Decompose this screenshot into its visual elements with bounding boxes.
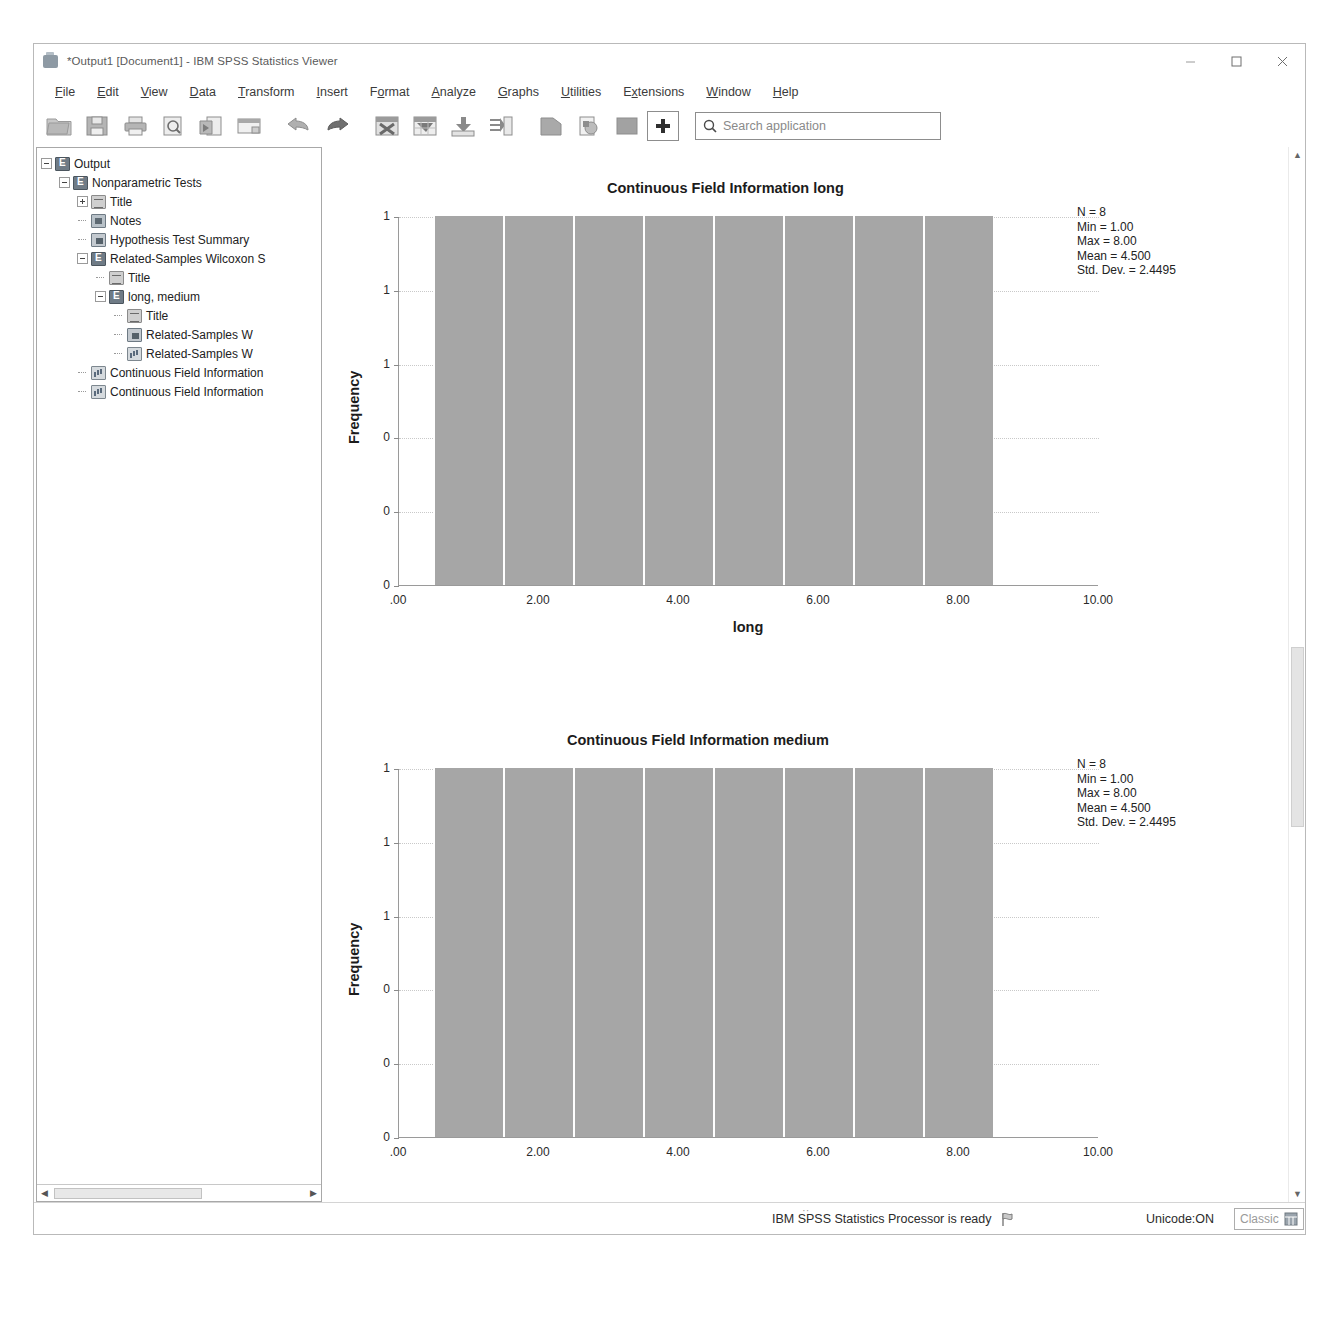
search-placeholder: Search application (723, 119, 826, 133)
menu-item-data[interactable]: Data (179, 82, 227, 102)
bar[interactable] (574, 216, 644, 585)
menu-item-insert[interactable]: Insert (306, 82, 359, 102)
go-to-variable-icon[interactable] (407, 109, 443, 143)
window-controls (1167, 44, 1305, 78)
export-icon[interactable] (193, 109, 229, 143)
menu-item-extensions[interactable]: Extensions (612, 82, 695, 102)
outline-node-label: Continuous Field Information (110, 366, 263, 380)
mode-indicator[interactable]: Classic (1234, 1208, 1304, 1230)
redo-icon[interactable] (319, 109, 355, 143)
outline-tree[interactable]: OutputNonparametric TestsTitleNotesHypot… (37, 148, 321, 1184)
tree-connector (113, 348, 124, 359)
bar[interactable] (504, 768, 574, 1137)
bar[interactable] (644, 768, 714, 1137)
notes-icon (91, 214, 106, 228)
bar[interactable] (574, 768, 644, 1137)
outline-node[interactable]: Nonparametric Tests (41, 173, 321, 192)
bar[interactable] (644, 216, 714, 585)
y-tick-mark (394, 917, 399, 918)
outline-node-label: Hypothesis Test Summary (110, 233, 249, 247)
hscroll-track[interactable] (52, 1187, 306, 1200)
search-icon (703, 119, 717, 133)
x-tick-label: 6.00 (788, 593, 848, 607)
insert-variable-icon[interactable] (483, 109, 519, 143)
outline-node[interactable]: Related-Samples Wilcoxon S (41, 249, 321, 268)
close-icon[interactable] (1259, 46, 1305, 76)
bar[interactable] (784, 216, 854, 585)
recall-dialog-icon[interactable] (231, 109, 267, 143)
chart-block[interactable]: Continuous Field Information longN = 8Mi… (322, 147, 1305, 692)
outline-node[interactable]: Continuous Field Information (41, 382, 321, 401)
outline-node-label: long, medium (128, 290, 200, 304)
collapse-icon[interactable] (77, 253, 88, 264)
use-sets-icon[interactable] (647, 111, 679, 141)
output-pane[interactable]: ▲ ▼ Continuous Field Information longN =… (322, 147, 1305, 1202)
bar[interactable] (854, 216, 924, 585)
value-labels-icon[interactable] (609, 109, 645, 143)
menu-item-utilities[interactable]: Utilities (550, 82, 612, 102)
print-preview-icon[interactable] (155, 109, 191, 143)
chart-title: Continuous Field Information medium (567, 732, 829, 748)
bar[interactable] (714, 768, 784, 1137)
scroll-left-icon[interactable]: ◀ (37, 1186, 52, 1201)
outline-node[interactable]: Related-Samples W (41, 325, 321, 344)
outline-node[interactable]: Continuous Field Information (41, 363, 321, 382)
outline-node-label: Title (110, 195, 132, 209)
collapse-icon[interactable] (95, 291, 106, 302)
select-cases-icon[interactable] (571, 109, 607, 143)
outline-node[interactable]: Output (41, 154, 321, 173)
bar[interactable] (784, 768, 854, 1137)
outline-node[interactable]: Related-Samples W (41, 344, 321, 363)
bar[interactable] (434, 768, 504, 1137)
minimize-icon[interactable] (1167, 46, 1213, 76)
y-axis-label: Frequency (346, 370, 362, 443)
menu-item-view[interactable]: View (130, 82, 179, 102)
chart-block[interactable]: Continuous Field Information mediumN = 8… (322, 699, 1305, 1202)
y-tick-label: 1 (360, 283, 390, 297)
outline-horizontal-scrollbar[interactable]: ◀ ▶ (37, 1184, 321, 1201)
collapse-icon[interactable] (41, 158, 52, 169)
outline-node-label: Related-Samples W (146, 347, 253, 361)
go-to-case-icon[interactable] (369, 109, 405, 143)
menu-item-help[interactable]: Help (762, 82, 810, 102)
bar[interactable] (854, 768, 924, 1137)
collapse-icon[interactable] (59, 177, 70, 188)
open-file-icon[interactable] (41, 109, 77, 143)
menu-item-window[interactable]: Window (695, 82, 761, 102)
hscroll-thumb[interactable] (54, 1188, 202, 1199)
bar[interactable] (924, 768, 994, 1137)
y-tick-label: 0 (360, 1130, 390, 1144)
outline-node[interactable]: Title (41, 192, 321, 211)
outline-node[interactable]: Hypothesis Test Summary (41, 230, 321, 249)
flag-icon (1000, 1211, 1016, 1227)
search-input[interactable]: Search application (695, 112, 941, 140)
split-file-icon[interactable] (533, 109, 569, 143)
menu-item-transform[interactable]: Transform (227, 82, 306, 102)
outline-node[interactable]: Title (41, 268, 321, 287)
insert-cases-icon[interactable] (445, 109, 481, 143)
output-book-icon (55, 157, 70, 171)
menu-item-graphs[interactable]: Graphs (487, 82, 550, 102)
bar[interactable] (924, 216, 994, 585)
bar[interactable] (714, 216, 784, 585)
bar[interactable] (504, 216, 574, 585)
undo-icon[interactable] (281, 109, 317, 143)
maximize-icon[interactable] (1213, 46, 1259, 76)
spss-viewer-window: *Output1 [Document1] - IBM SPSS Statisti… (33, 43, 1306, 1235)
save-icon[interactable] (79, 109, 115, 143)
outline-node[interactable]: Title (41, 306, 321, 325)
scroll-right-icon[interactable]: ▶ (306, 1186, 321, 1201)
bar[interactable] (434, 216, 504, 585)
y-tick-mark (394, 512, 399, 513)
outline-node[interactable]: Notes (41, 211, 321, 230)
print-icon[interactable] (117, 109, 153, 143)
x-tick-label: 10.00 (1068, 593, 1128, 607)
menu-item-format[interactable]: Format (359, 82, 421, 102)
outline-node[interactable]: long, medium (41, 287, 321, 306)
menu-item-file[interactable]: File (44, 82, 86, 102)
y-tick-label: 0 (360, 430, 390, 444)
menu-item-analyze[interactable]: Analyze (420, 82, 486, 102)
expand-icon[interactable] (77, 196, 88, 207)
outline-pane: OutputNonparametric TestsTitleNotesHypot… (36, 147, 322, 1202)
menu-item-edit[interactable]: Edit (86, 82, 130, 102)
